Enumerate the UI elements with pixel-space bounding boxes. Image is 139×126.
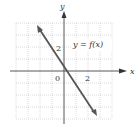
x-tick-label: 2 (85, 74, 90, 83)
origin-label: 0 (55, 74, 60, 83)
y-axis-label: y (59, 2, 65, 11)
x-axis-arrow-icon (119, 69, 127, 74)
function-label: y = f(x) (72, 40, 103, 49)
function-graph: x y 0 2 2 y = f(x) (0, 0, 139, 126)
y-axis-arrow-icon (62, 11, 67, 18)
y-tick-label: 2 (56, 44, 61, 53)
x-axis-label: x (130, 67, 135, 76)
